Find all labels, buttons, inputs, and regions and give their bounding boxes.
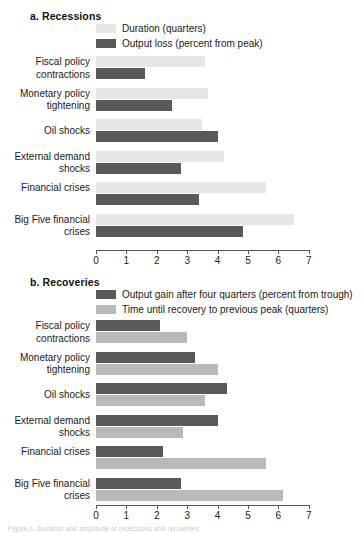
axis-tick-label: 2 — [147, 255, 167, 266]
axis-tick — [309, 505, 310, 509]
axis-tick — [309, 250, 310, 254]
axis-tick — [278, 250, 279, 254]
category-label: Oil shocks — [4, 389, 90, 402]
category-label: Fiscal policy contractions — [4, 56, 90, 81]
axis-tick — [248, 505, 249, 509]
chart-bar — [96, 100, 172, 111]
axis-tick-label: 2 — [147, 510, 167, 521]
chart-bar — [96, 163, 181, 174]
axis-tick-label: 3 — [177, 510, 197, 521]
axis-tick-label: 0 — [86, 255, 106, 266]
panel-b-title: b. Recoveries — [30, 276, 100, 288]
panel-a-legend-item: Duration (quarters) — [96, 22, 263, 35]
axis-tick-label: 4 — [208, 255, 228, 266]
axis-line — [96, 250, 309, 251]
panel-b-plot: Fiscal policy contractionsMonetary polic… — [0, 320, 363, 510]
chart-bar — [96, 446, 163, 457]
axis-tick-label: 7 — [299, 510, 319, 521]
axis-tick-label: 7 — [299, 255, 319, 266]
axis-tick — [248, 250, 249, 254]
chart-bar — [96, 364, 218, 375]
axis-line — [96, 505, 309, 506]
chart-bar — [96, 352, 195, 363]
axis-tick-label: 1 — [116, 510, 136, 521]
category-label: Monetary policy tightening — [4, 88, 90, 113]
axis-tick — [187, 250, 188, 254]
chart-category-row: Financial crises — [0, 446, 363, 476]
chart-bar — [96, 56, 205, 67]
chart-bar — [96, 383, 227, 394]
chart-category-row: Big Five financial crises — [0, 214, 363, 244]
chart-bar — [96, 151, 224, 162]
axis-tick-label: 5 — [238, 255, 258, 266]
axis-tick — [278, 505, 279, 509]
chart-bar — [96, 395, 205, 406]
panel-a-title: a. Recessions — [30, 10, 101, 22]
axis-tick-label: 1 — [116, 255, 136, 266]
legend-swatch-icon — [96, 39, 116, 48]
category-label: Financial crises — [4, 446, 90, 459]
axis-tick — [218, 505, 219, 509]
chart-category-row: Big Five financial crises — [0, 478, 363, 508]
axis-tick-label: 6 — [268, 255, 288, 266]
legend-label: Time until recovery to previous peak (qu… — [122, 304, 328, 315]
axis-tick-label: 0 — [86, 510, 106, 521]
chart-category-row: Monetary policy tightening — [0, 88, 363, 118]
chart-category-row: Oil shocks — [0, 383, 363, 413]
legend-label: Output loss (percent from peak) — [122, 38, 263, 49]
panel-a-legend: Duration (quarters)Output loss (percent … — [96, 22, 263, 52]
chart-bar — [96, 415, 218, 426]
figure-container: a. Recessions Duration (quarters)Output … — [0, 0, 363, 533]
chart-bar — [96, 427, 183, 438]
chart-bar — [96, 119, 202, 130]
axis-tick — [96, 505, 97, 509]
category-label: Big Five financial crises — [4, 214, 90, 239]
chart-category-row: Fiscal policy contractions — [0, 320, 363, 350]
category-label: Monetary policy tightening — [4, 352, 90, 377]
chart-bar — [96, 194, 199, 205]
chart-bar — [96, 490, 283, 501]
chart-bar — [96, 478, 181, 489]
legend-swatch-icon — [96, 24, 116, 33]
chart-category-row: External demand shocks — [0, 151, 363, 181]
panel-a-plot: Fiscal policy contractionsMonetary polic… — [0, 56, 363, 246]
chart-category-row: Fiscal policy contractions — [0, 56, 363, 86]
category-label: Financial crises — [4, 182, 90, 195]
panel-b-legend: Output gain after four quarters (percent… — [96, 288, 353, 318]
chart-category-row: Financial crises — [0, 182, 363, 212]
axis-tick — [96, 250, 97, 254]
chart-bar — [96, 88, 208, 99]
category-label: Big Five financial crises — [4, 478, 90, 503]
axis-tick — [157, 505, 158, 509]
chart-bar — [96, 332, 187, 343]
axis-tick-label: 6 — [268, 510, 288, 521]
axis-tick — [157, 250, 158, 254]
legend-label: Output gain after four quarters (percent… — [122, 289, 353, 300]
chart-category-row: Oil shocks — [0, 119, 363, 149]
chart-category-row: Monetary policy tightening — [0, 352, 363, 382]
chart-bar — [96, 68, 145, 79]
axis-tick — [126, 505, 127, 509]
chart-bar — [96, 182, 266, 193]
axis-tick-label: 3 — [177, 255, 197, 266]
legend-label: Duration (quarters) — [122, 23, 206, 34]
panel-b-axis: 01234567 — [0, 505, 363, 527]
category-label: Fiscal policy contractions — [4, 320, 90, 345]
axis-tick-label: 4 — [208, 510, 228, 521]
chart-category-row: External demand shocks — [0, 415, 363, 445]
panel-b-legend-item: Time until recovery to previous peak (qu… — [96, 303, 353, 316]
chart-bar — [96, 226, 243, 237]
axis-tick-label: 5 — [238, 510, 258, 521]
figure-caption: Figure 1. Duration and amplitude of rece… — [8, 525, 199, 532]
chart-bar — [96, 458, 266, 469]
panel-b-legend-item: Output gain after four quarters (percent… — [96, 288, 353, 301]
axis-tick — [218, 250, 219, 254]
chart-bar — [96, 131, 218, 142]
axis-tick — [126, 250, 127, 254]
legend-swatch-icon — [96, 305, 116, 314]
category-label: External demand shocks — [4, 151, 90, 176]
chart-bar — [96, 320, 160, 331]
legend-swatch-icon — [96, 290, 116, 299]
chart-bar — [96, 214, 294, 225]
panel-a-axis: 01234567 — [0, 250, 363, 272]
